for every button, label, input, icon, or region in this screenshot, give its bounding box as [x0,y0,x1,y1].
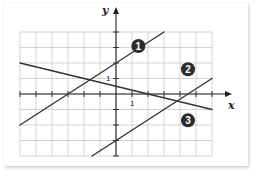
y-tick-label-1: 1 [106,74,111,83]
line-2-badge: 2 [181,62,195,76]
x-axis-label: x [227,99,235,112]
badge-number: 1 [136,41,142,52]
line-badges: 123 [131,39,195,127]
y-axis-arrow-icon [113,7,119,14]
line-1-badge: 1 [131,39,145,53]
badge-number: 3 [185,115,191,126]
x-axis-arrow-icon [225,91,232,97]
x-tick-label-1: 1 [130,99,135,108]
y-axis-label: y [101,4,110,17]
coordinate-plane: 123 y x 1 1 [0,0,256,176]
badge-number: 2 [185,64,191,75]
line-3-badge: 3 [181,113,195,127]
